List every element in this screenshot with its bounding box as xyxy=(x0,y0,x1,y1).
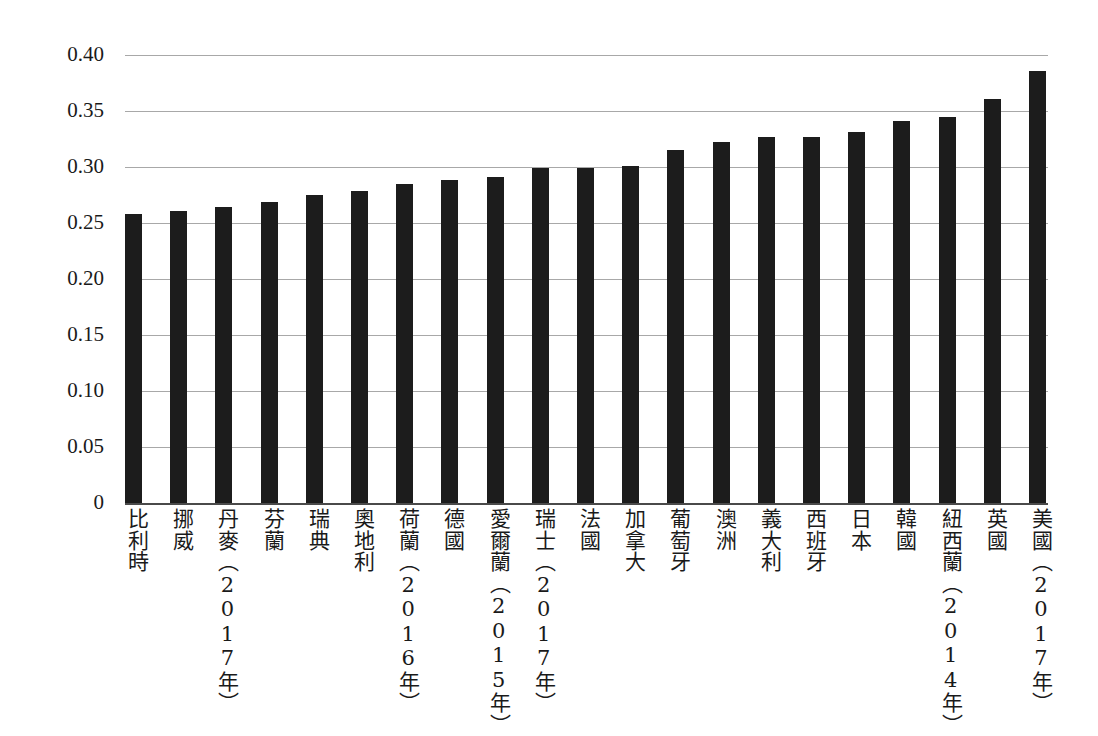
gridline xyxy=(125,55,1048,56)
bar xyxy=(261,202,278,503)
y-axis-tick-label: 0.05 xyxy=(0,436,112,457)
x-axis-category-label: 英國 xyxy=(980,508,1006,551)
bar xyxy=(170,211,187,503)
axis-baseline xyxy=(125,503,1048,505)
bar xyxy=(577,168,594,503)
x-axis-category-label: 挪威 xyxy=(166,508,192,551)
bar xyxy=(532,168,549,503)
bar xyxy=(622,166,639,503)
bar xyxy=(441,180,458,503)
y-axis-tick-label: 0.10 xyxy=(0,380,112,401)
x-axis-category-labels: 比利時挪威丹麥（2017年）芬蘭瑞典奧地利荷蘭（2016年）德國愛爾蘭（2015… xyxy=(125,508,1048,728)
x-axis-category-label: 丹麥（2017年） xyxy=(211,508,237,714)
x-axis-category-label: 瑞士（2017年） xyxy=(528,508,554,714)
bar xyxy=(306,195,323,503)
bar xyxy=(1029,71,1046,503)
x-axis-category-label: 葡萄牙 xyxy=(663,508,689,573)
y-axis-tick-label: 0.35 xyxy=(0,100,112,121)
bar xyxy=(396,184,413,503)
y-axis-tick-label: 0.40 xyxy=(0,44,112,65)
y-axis-tick-label: 0.15 xyxy=(0,324,112,345)
gridline xyxy=(125,111,1048,112)
bar xyxy=(351,191,368,503)
x-axis-category-label: 美國（2017年） xyxy=(1025,508,1051,714)
x-axis-category-label: 西班牙 xyxy=(799,508,825,573)
y-axis-tick-label: 0.25 xyxy=(0,212,112,233)
bar xyxy=(713,142,730,503)
bar xyxy=(487,177,504,503)
x-axis-category-label: 芬蘭 xyxy=(257,508,283,551)
x-axis-category-label: 荷蘭（2016年） xyxy=(392,508,418,714)
bar xyxy=(215,207,232,503)
bar xyxy=(125,214,142,503)
x-axis-category-label: 加拿大 xyxy=(618,508,644,573)
x-axis-category-label: 瑞典 xyxy=(302,508,328,551)
y-axis-tick-label: 0.20 xyxy=(0,268,112,289)
x-axis-category-label: 德國 xyxy=(437,508,463,551)
x-axis-category-label: 義大利 xyxy=(754,508,780,573)
bar xyxy=(667,150,684,503)
x-axis-category-label: 韓國 xyxy=(889,508,915,551)
x-axis-category-label: 奧地利 xyxy=(347,508,373,573)
bar xyxy=(984,99,1001,503)
bar-chart: 0.400.350.300.250.200.150.100.050 比利時挪威丹… xyxy=(0,0,1098,736)
x-axis-category-label: 愛爾蘭（2015年） xyxy=(483,508,509,735)
bar xyxy=(848,132,865,503)
bar xyxy=(803,137,820,503)
y-axis-tick-label: 0 xyxy=(0,492,112,513)
x-axis-category-label: 日本 xyxy=(844,508,870,551)
bar xyxy=(893,121,910,503)
x-axis-category-label: 法國 xyxy=(573,508,599,551)
plot-area xyxy=(125,55,1048,503)
y-axis-tick-labels: 0.400.350.300.250.200.150.100.050 xyxy=(0,0,112,736)
x-axis-category-label: 澳洲 xyxy=(709,508,735,551)
bar xyxy=(758,137,775,503)
x-axis-category-label: 比利時 xyxy=(121,508,147,573)
bar xyxy=(939,117,956,503)
x-axis-category-label: 紐西蘭（2014年） xyxy=(935,508,961,735)
y-axis-tick-label: 0.30 xyxy=(0,156,112,177)
